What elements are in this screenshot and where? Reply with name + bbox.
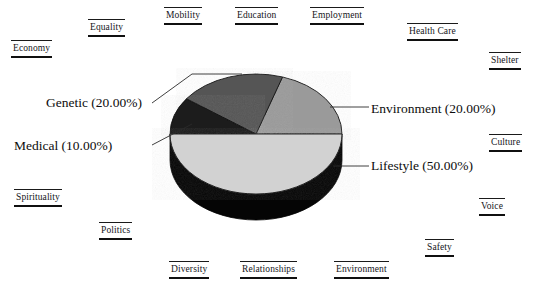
background-label: Voice: [479, 198, 505, 216]
background-label: Equality: [88, 19, 125, 37]
background-label: Spirituality: [14, 189, 62, 207]
background-label: Education: [235, 7, 278, 25]
background-label: Safety: [425, 239, 454, 257]
chart-canvas: EqualityMobilityEducationEmploymentHealt…: [0, 0, 545, 292]
background-label: Politics: [99, 222, 132, 240]
background-label: Economy: [11, 40, 52, 58]
pie-leader-lines: [152, 74, 369, 166]
pie-slice-lifestyle[interactable]: [170, 134, 342, 194]
background-label: Culture: [489, 134, 522, 152]
leader-line-medical: [152, 124, 192, 145]
pie-side-segment: [170, 134, 342, 220]
callout-label-genetic: Genetic (20.00%): [46, 95, 142, 110]
background-label: Shelter: [489, 52, 521, 70]
background-label: Relationships: [240, 261, 297, 279]
pie-3d-side-wall: [170, 134, 342, 220]
background-label: Employment: [310, 7, 364, 25]
pie-slice-medical[interactable]: [170, 99, 256, 134]
pie-top-face: [170, 74, 342, 194]
background-label: Diversity: [169, 261, 209, 279]
leader-line-genetic: [152, 74, 242, 103]
background-label: Health Care: [407, 23, 458, 41]
pie-slice-genetic[interactable]: [186, 74, 282, 134]
background-label: Environment: [334, 261, 389, 279]
callout-label-medical: Medical (10.00%): [14, 138, 112, 153]
callout-label-environment: Environment (20.00%): [371, 101, 495, 116]
callout-label-lifestyle: Lifestyle (50.00%): [371, 158, 473, 173]
pie-slice-environment[interactable]: [256, 77, 342, 134]
background-label: Mobility: [164, 7, 202, 25]
